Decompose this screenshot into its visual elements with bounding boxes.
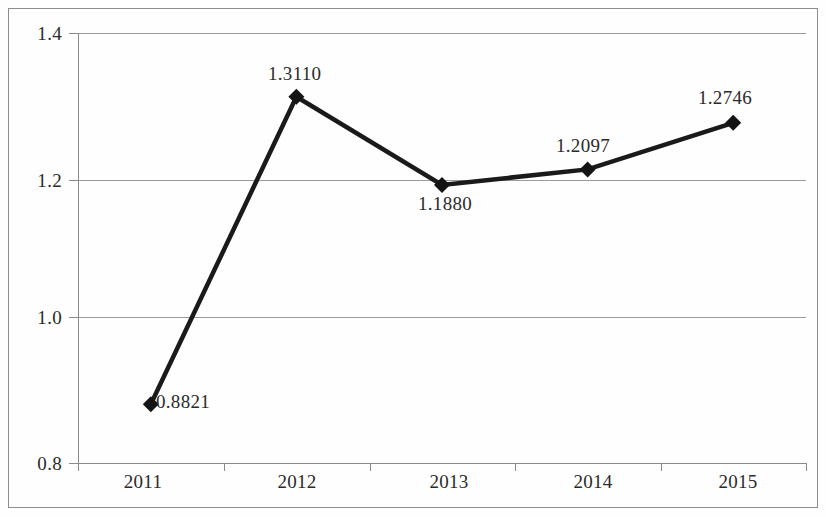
y-tick-label-0-8: 0.8: [26, 454, 62, 473]
x-tick-mark-4: [661, 463, 662, 471]
x-tick-label-2015: 2015: [693, 472, 783, 491]
chart-screenshot: 1.4 1.2 1.0 0.8 2011 2012 2013 2014 2015…: [0, 0, 826, 517]
x-tick-label-2011: 2011: [98, 472, 188, 491]
x-tick-mark-1: [224, 463, 225, 471]
y-tick-mark-0-8: [69, 463, 78, 464]
chart-outer-border: [8, 8, 818, 508]
x-tick-mark-2: [370, 463, 371, 471]
y-tick-mark-1-4: [69, 33, 78, 34]
x-tick-label-2012: 2012: [252, 472, 342, 491]
gridline-1-4: [78, 33, 806, 34]
y-tick-mark-1-0: [69, 317, 78, 318]
data-label-2013: 1.1880: [418, 194, 472, 213]
y-tick-label-1-4: 1.4: [26, 24, 62, 43]
gridline-1-0: [78, 317, 806, 318]
y-tick-label-1-0: 1.0: [26, 308, 62, 327]
data-label-2014: 1.2097: [556, 136, 610, 155]
x-tick-label-2014: 2014: [548, 472, 638, 491]
axis-x-baseline: [78, 463, 806, 464]
x-tick-label-2013: 2013: [404, 472, 494, 491]
gridline-1-2: [78, 180, 806, 181]
data-label-2012: 1.3110: [268, 64, 321, 83]
x-tick-mark-0: [78, 463, 79, 471]
data-label-2015: 1.2746: [698, 88, 752, 107]
y-tick-mark-1-2: [69, 180, 78, 181]
x-tick-mark-5: [806, 463, 807, 471]
data-label-2011: 0.8821: [156, 392, 210, 411]
x-tick-mark-3: [515, 463, 516, 471]
y-tick-label-1-2: 1.2: [26, 171, 62, 190]
y-axis-line: [78, 33, 79, 463]
